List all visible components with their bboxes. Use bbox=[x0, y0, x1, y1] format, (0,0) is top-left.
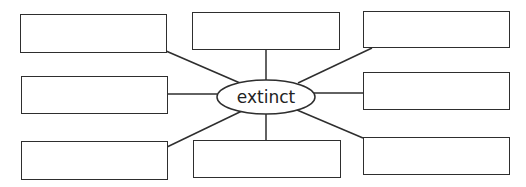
box-top-center[interactable] bbox=[192, 12, 340, 50]
box-bottom-left[interactable] bbox=[21, 141, 168, 180]
center-label: extinct bbox=[217, 80, 315, 114]
box-top-left[interactable] bbox=[20, 14, 167, 53]
box-top-right[interactable] bbox=[363, 11, 510, 48]
box-bottom-right[interactable] bbox=[363, 137, 510, 175]
box-bottom-center[interactable] bbox=[193, 140, 341, 178]
connector-bottom-right bbox=[297, 110, 363, 138]
box-middle-left[interactable] bbox=[21, 76, 168, 114]
connector-top-right bbox=[298, 48, 372, 83]
box-middle-right[interactable] bbox=[363, 72, 510, 110]
connector-top-left bbox=[166, 51, 240, 83]
